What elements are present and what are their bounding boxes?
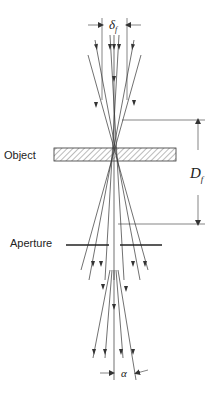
- alpha-annotation: α: [100, 367, 148, 379]
- D-f-label: Df: [189, 165, 205, 184]
- light-rays: [81, 35, 148, 380]
- object-slab: Object: [4, 148, 176, 161]
- delta-f-label: δf: [109, 17, 119, 34]
- alpha-label: α: [121, 367, 127, 379]
- object-label: Object: [4, 149, 36, 161]
- delta-f-dimension: δf: [88, 17, 141, 100]
- aperture-label: Aperture: [10, 237, 52, 249]
- depth-of-field-diagram: δf: [0, 0, 217, 398]
